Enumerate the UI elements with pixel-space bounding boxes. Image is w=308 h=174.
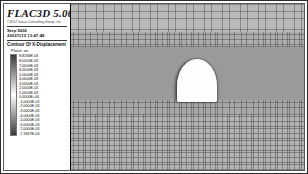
flac3d-window: FLAC3D 5.00 ©2012 Itasca Consulting Grou…	[0, 0, 308, 174]
mesh-plot	[71, 4, 304, 170]
info-legend-panel: FLAC3D 5.00 ©2012 Itasca Consulting Grou…	[4, 4, 70, 170]
legend-colorbar	[10, 54, 17, 136]
datetime-label: 2022/1/12 13:47:48	[7, 33, 70, 38]
upper-coarse-mesh	[71, 4, 304, 32]
legend-tick-value: -7.1847E-03	[19, 132, 39, 137]
bottom-mesh	[71, 114, 304, 170]
legend-tick-list: 8.8184E-038.0000E-037.0000E-036.0000E-03…	[19, 54, 39, 136]
window-inner-frame: FLAC3D 5.00 ©2012 Itasca Consulting Grou…	[3, 3, 305, 171]
contour-legend: 8.8184E-038.0000E-037.0000E-036.0000E-03…	[7, 54, 70, 136]
meta-divider	[7, 40, 67, 41]
upper-fine-mesh	[71, 32, 304, 47]
lower-fine-mesh	[71, 100, 304, 113]
title-divider	[7, 26, 67, 27]
copyright-line: ©2012 Itasca Consulting Group, Inc.	[7, 20, 70, 24]
arch-tunnel-opening	[177, 59, 217, 102]
plot-viewport[interactable]	[70, 4, 304, 170]
app-title: FLAC3D 5.00	[7, 7, 68, 19]
